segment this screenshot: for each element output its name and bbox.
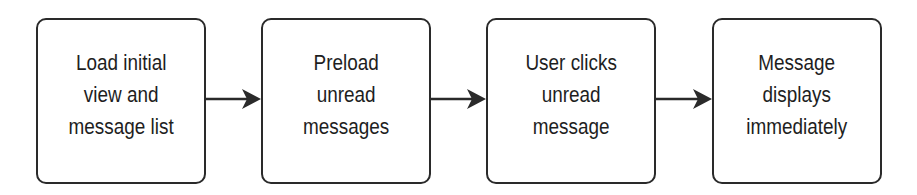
arrow-icon [431,89,486,109]
arrow-icon [656,89,712,109]
arrow-icon [206,89,261,109]
arrows-layer [0,0,917,195]
